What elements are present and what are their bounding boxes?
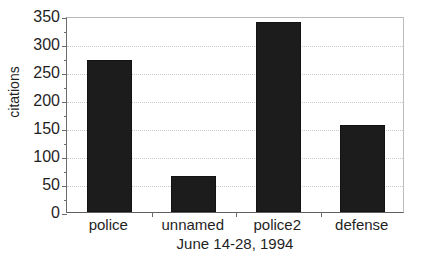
y-axis-minor-tick-mark	[64, 60, 67, 61]
x-axis-tick-label: unnamed	[151, 217, 236, 233]
y-axis-tick-mark	[62, 186, 67, 187]
y-axis-minor-tick-mark	[64, 200, 67, 201]
plot-area	[66, 17, 404, 213]
y-axis-minor-tick-mark	[64, 172, 67, 173]
x-axis-tick-label: police2	[235, 217, 320, 233]
y-axis-tick-label: 100	[22, 149, 60, 165]
y-axis-tick-label: 350	[22, 9, 60, 25]
y-axis-minor-tick-mark	[64, 144, 67, 145]
y-axis-tick-label: 250	[22, 65, 60, 81]
gridline	[67, 46, 403, 47]
y-axis-title: citations	[6, 56, 22, 128]
y-axis-minor-tick-mark	[64, 32, 67, 33]
y-axis-tick-mark	[62, 130, 67, 131]
x-axis-tick-label: defense	[320, 217, 405, 233]
y-axis-tick-label: 300	[22, 37, 60, 53]
y-axis-tick-mark	[62, 214, 67, 215]
y-axis-tick-mark	[62, 46, 67, 47]
y-axis-tick-label: 150	[22, 121, 60, 137]
x-axis-tick-label: police	[66, 217, 151, 233]
y-axis-tick-mark	[62, 74, 67, 75]
bar	[171, 176, 216, 212]
y-axis-minor-tick-mark	[64, 116, 67, 117]
y-axis-tick-label: 200	[22, 93, 60, 109]
bar	[256, 22, 301, 212]
y-axis-tick-mark	[62, 102, 67, 103]
y-axis-tick-mark	[62, 18, 67, 19]
y-axis-minor-tick-mark	[64, 88, 67, 89]
bar	[340, 125, 385, 212]
bar-chart: citations 350300250200150100500 policeun…	[0, 0, 422, 266]
y-axis-tick-mark	[62, 158, 67, 159]
bar	[87, 60, 132, 212]
x-axis-title: June 14-28, 1994	[66, 235, 404, 252]
y-axis-tick-label: 50	[22, 177, 60, 193]
y-axis-tick-label: 0	[22, 205, 60, 221]
